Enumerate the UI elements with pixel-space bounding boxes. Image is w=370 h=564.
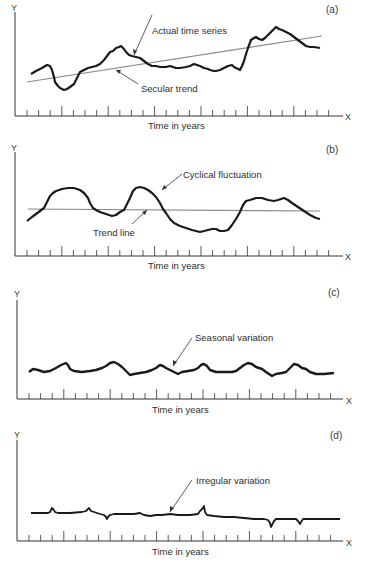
annotation-arrow [134, 15, 152, 55]
x-ticks [29, 389, 331, 399]
y-axis-label: Y [11, 3, 17, 13]
x-axis-title: Time in years [152, 404, 209, 415]
trend-line [27, 36, 322, 82]
x-axis-label: X [345, 252, 351, 262]
x-axis-title: Time in years [148, 260, 205, 271]
x-axis-title: Time in years [148, 120, 205, 131]
panel-tag: (d) [330, 430, 342, 441]
trend-line [28, 209, 320, 211]
series-line [31, 506, 340, 527]
x-axis-label: X [345, 112, 351, 122]
arrowhead-icon [162, 185, 167, 190]
panel-tag: (c) [328, 287, 340, 298]
panel-b: Cyclical fluctuation Trend line Y X Time… [0, 140, 370, 281]
x-ticks [29, 531, 331, 541]
x-ticks [27, 106, 329, 116]
chart-panel-d: Irregular variation Y X Time in years (d… [0, 420, 370, 564]
panel-tag: (b) [326, 144, 338, 155]
arrowhead-icon [116, 70, 121, 74]
annotation-cyclical-fluctuation: Cyclical fluctuation [183, 169, 262, 180]
panel-d: Irregular variation Y X Time in years (d… [0, 420, 370, 561]
x-axis-title: Time in years [152, 546, 209, 557]
annotation-secular-trend: Secular trend [141, 83, 198, 94]
chart-panel-a: Actual time series Secular trend Y X Tim… [0, 0, 370, 141]
panel-tag: (a) [326, 4, 338, 15]
annotation-seasonal-variation: Seasonal variation [195, 332, 273, 343]
x-ticks [27, 246, 329, 256]
chart-panel-c: Seasonal variation Y X Time in years (c) [0, 280, 370, 421]
annotation-arrow [170, 480, 192, 512]
panel-c: Seasonal variation Y X Time in years (c) [0, 280, 370, 421]
y-axis-label: Y [14, 430, 20, 440]
panel-a: Actual time series Secular trend Y X Tim… [0, 0, 370, 141]
series-line [29, 362, 334, 376]
x-axis-label: X [346, 538, 352, 548]
annotation-irregular-variation: Irregular variation [196, 475, 270, 486]
annotation-trend-line: Trend line [93, 227, 135, 238]
chart-panel-b: Cyclical fluctuation Trend line Y X Time… [0, 140, 370, 281]
x-axis-label: X [346, 396, 352, 406]
y-axis-label: Y [11, 143, 17, 153]
y-axis-label: Y [14, 289, 20, 299]
annotation-actual-time-series: Actual time series [152, 25, 227, 36]
